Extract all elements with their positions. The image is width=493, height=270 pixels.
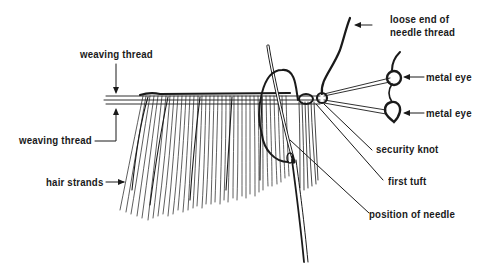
first-tuft <box>299 102 318 190</box>
eye-threads <box>324 78 390 114</box>
label-loose-end-line1: loose end of <box>390 13 449 25</box>
label-metal-eye-bottom: metal eye <box>426 107 472 119</box>
label-metal-eye-top: metal eye <box>426 71 472 83</box>
label-weaving-thread-top: weaving thread <box>80 48 153 60</box>
loose-end-thread <box>322 18 350 94</box>
metal-eye-top <box>387 52 401 85</box>
label-position-of-needle: position of needle <box>369 208 455 220</box>
metal-eye-bottom <box>385 84 400 122</box>
label-loose-end-line2: needle thread <box>390 26 455 38</box>
weaving-threads <box>104 96 320 104</box>
label-security-knot: security knot <box>376 143 439 155</box>
label-hair-strands: hair strands <box>46 176 104 188</box>
label-first-tuft: first tuft <box>388 175 426 187</box>
hair-band-top <box>140 93 290 95</box>
label-weaving-thread-bottom: weaving thread <box>19 134 92 146</box>
hair-strands <box>120 96 289 220</box>
first-tuft-knot <box>299 94 313 104</box>
